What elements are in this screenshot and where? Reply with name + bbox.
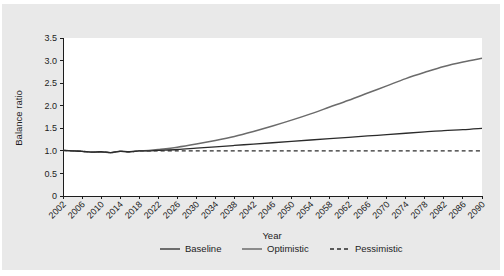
x-tick-label: 2070 <box>370 199 391 220</box>
chart-figure: 00.51.01.52.02.53.03.5 20022006201020142… <box>0 0 504 276</box>
y-tick-label: 1.5 <box>44 123 57 133</box>
x-tick-label: 2066 <box>351 199 372 220</box>
y-tick-label: 2.0 <box>44 101 57 111</box>
y-tick-label: 0 <box>52 191 57 201</box>
x-axis-ticks: 2002200620102014201820222026203020342038… <box>47 196 487 221</box>
y-axis-ticks: 00.51.01.52.02.53.03.5 <box>44 33 63 201</box>
x-tick-label: 2022 <box>142 199 163 220</box>
line-chart: 00.51.01.52.02.53.03.5 20022006201020142… <box>0 0 504 276</box>
x-tick-label: 2046 <box>256 199 277 220</box>
x-tick-label: 2050 <box>275 199 296 220</box>
x-axis-title: Year <box>262 230 281 241</box>
x-tick-label: 2058 <box>313 199 334 220</box>
y-axis-title: Balance ratio <box>13 90 24 145</box>
y-tick-label: 1.0 <box>44 146 57 156</box>
x-tick-label: 2042 <box>237 199 258 220</box>
chart-legend: BaselineOptimisticPessimistic <box>160 243 403 254</box>
x-tick-label: 2086 <box>447 199 468 220</box>
y-tick-label: 3.5 <box>44 33 57 43</box>
x-tick-label: 2018 <box>123 199 144 220</box>
data-series <box>63 58 482 152</box>
x-tick-label: 2038 <box>218 199 239 220</box>
x-tick-label: 2010 <box>85 199 106 220</box>
legend-label-optimistic: Optimistic <box>267 243 309 254</box>
x-tick-label: 2054 <box>294 199 315 220</box>
legend-item-pessimistic: Pessimistic <box>330 243 403 254</box>
x-tick-label: 2002 <box>47 199 68 220</box>
x-tick-label: 2034 <box>199 199 220 220</box>
series-line-baseline <box>63 128 482 152</box>
y-tick-label: 2.5 <box>44 78 57 88</box>
legend-label-pessimistic: Pessimistic <box>355 243 403 254</box>
x-tick-label: 2026 <box>161 199 182 220</box>
x-tick-label: 2082 <box>428 199 449 220</box>
x-tick-label: 2090 <box>466 199 487 220</box>
legend-item-optimistic: Optimistic <box>242 243 309 254</box>
axis-lines <box>63 38 482 196</box>
series-line-optimistic <box>63 58 482 152</box>
x-tick-label: 2014 <box>104 199 125 220</box>
y-tick-label: 0.5 <box>44 169 57 179</box>
x-tick-label: 2078 <box>409 199 430 220</box>
legend-label-baseline: Baseline <box>185 243 221 254</box>
legend-item-baseline: Baseline <box>160 243 221 254</box>
x-tick-label: 2030 <box>180 199 201 220</box>
x-tick-label: 2006 <box>66 199 87 220</box>
y-tick-label: 3.0 <box>44 56 57 66</box>
x-tick-label: 2062 <box>332 199 353 220</box>
x-tick-label: 2074 <box>389 199 410 220</box>
